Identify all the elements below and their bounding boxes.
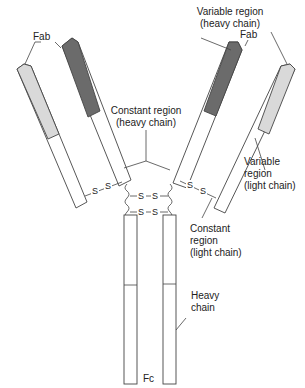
constant-light-label: Constant region (light chain) (190, 223, 242, 259)
left-light-variable-region (17, 64, 59, 139)
svg-text:S: S (152, 191, 158, 201)
right-heavy-variable-region (204, 42, 242, 116)
svg-text:S: S (200, 186, 206, 196)
svg-text:S: S (138, 207, 144, 217)
right-heavy-stem (163, 215, 176, 384)
fc-label: Fc (143, 373, 154, 385)
fab-left-label: Fab (33, 31, 50, 43)
heavy-heavy-disulfide-bonds: SS SS (130, 191, 168, 217)
left-heavy-stem (124, 215, 137, 384)
left-light-heavy-disulfide: SS (85, 181, 122, 196)
antibody-diagram: SS SS SS SS (0, 0, 305, 388)
constant-heavy-label: Constant region (heavy chain) (104, 105, 188, 129)
svg-text:S: S (92, 186, 98, 196)
heavy-chain-label: Heavy chain (191, 290, 219, 314)
svg-text:S: S (105, 181, 111, 191)
svg-text:S: S (138, 191, 144, 201)
svg-text:S: S (152, 207, 158, 217)
antibody-structure-graphic: SS SS SS SS (0, 0, 305, 388)
variable-heavy-label: Variable region (heavy chain) (185, 6, 275, 30)
variable-light-label: Variable region (light chain) (244, 156, 296, 192)
svg-text:S: S (187, 180, 193, 190)
fab-right-label: Fab (240, 29, 257, 41)
